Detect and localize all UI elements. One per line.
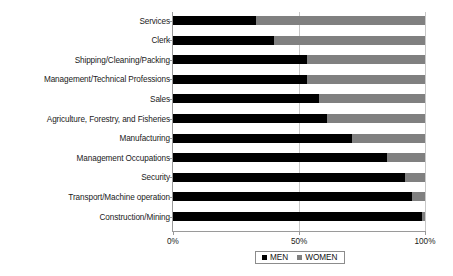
x-tick-label: 100% — [415, 237, 436, 247]
bar-row — [173, 153, 425, 162]
bar-segment-men — [173, 36, 274, 45]
bar-segment-women — [422, 212, 425, 221]
bar-row — [173, 94, 425, 103]
bar-segment-men — [173, 173, 405, 182]
bar-segment-women — [327, 114, 425, 123]
bar-segment-women — [319, 94, 425, 103]
x-tick-mark — [299, 231, 300, 235]
bar-segment-women — [387, 153, 425, 162]
y-axis-label: Agriculture, Forestry, and Fisheries — [0, 115, 170, 124]
y-axis-label: Shipping/Cleaning/Packing — [0, 56, 170, 65]
bar-segment-men — [173, 134, 352, 143]
bar-segment-men — [173, 16, 256, 25]
bar-segment-women — [405, 173, 425, 182]
bar-row — [173, 36, 425, 45]
legend-label: MEN — [270, 253, 288, 262]
bar-segment-women — [352, 134, 425, 143]
bar-segment-women — [412, 192, 425, 201]
y-axis-label: Sales — [0, 95, 170, 104]
y-axis-label: Management Occupations — [0, 154, 170, 163]
bar-segment-women — [256, 16, 425, 25]
legend-swatch-icon — [262, 255, 267, 260]
y-axis-label: Security — [0, 173, 170, 182]
bar-segment-men — [173, 212, 422, 221]
bar-segment-women — [274, 36, 425, 45]
chart-legend: MENWOMEN — [255, 251, 345, 264]
bar-segment-women — [307, 75, 425, 84]
y-axis-label: Manufacturing — [0, 134, 170, 143]
legend-item-men: MEN — [262, 253, 288, 262]
bar-row — [173, 114, 425, 123]
bar-segment-men — [173, 94, 319, 103]
bar-segment-men — [173, 114, 327, 123]
bar-segment-women — [307, 55, 425, 64]
bar-segment-men — [173, 55, 307, 64]
bar-segment-men — [173, 75, 307, 84]
x-tick-label: 0% — [167, 237, 179, 247]
bar-segment-men — [173, 192, 412, 201]
legend-item-women: WOMEN — [297, 253, 337, 262]
bar-row — [173, 55, 425, 64]
x-tick-label: 50% — [291, 237, 307, 247]
plot-area — [173, 12, 425, 232]
x-tick-mark — [173, 231, 174, 235]
bar-row — [173, 192, 425, 201]
y-axis-label: Services — [0, 17, 170, 26]
gridline-100% — [425, 12, 426, 232]
bar-row — [173, 16, 425, 25]
stacked-bar-chart: ServicesClerkShipping/Cleaning/PackingMa… — [0, 0, 453, 276]
legend-swatch-icon — [297, 255, 302, 260]
y-axis-label: Transport/Machine operation — [0, 193, 170, 202]
bar-row — [173, 212, 425, 221]
legend-label: WOMEN — [305, 253, 337, 262]
x-tick-mark — [425, 231, 426, 235]
bar-segment-men — [173, 153, 387, 162]
y-axis-label: Clerk — [0, 36, 170, 45]
y-axis-category-labels: ServicesClerkShipping/Cleaning/PackingMa… — [0, 0, 170, 232]
bar-row — [173, 75, 425, 84]
y-axis-label: Construction/Mining — [0, 213, 170, 222]
bar-row — [173, 134, 425, 143]
y-axis-label: Management/Technical Professions — [0, 75, 170, 84]
bar-row — [173, 173, 425, 182]
